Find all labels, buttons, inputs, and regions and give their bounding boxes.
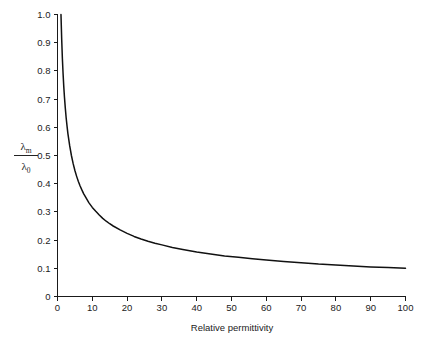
y-axis-ticks: [54, 15, 58, 297]
y-axis-label: λm λ0: [14, 140, 38, 175]
y-axis-tick-labels: 00.10.20.30.40.50.60.70.80.91.0: [37, 9, 50, 302]
chart-plot: 00.10.20.30.40.50.60.70.80.91.0 01020304…: [0, 0, 422, 346]
y-tick-label-0: 0: [45, 291, 50, 302]
x-tick-label-30: 30: [157, 302, 168, 313]
y-tick-label-0.1: 0.1: [37, 263, 50, 274]
x-tick-label-50: 50: [226, 302, 237, 313]
x-tick-label-70: 70: [296, 302, 307, 313]
x-tick-label-0: 0: [55, 302, 60, 313]
y-tick-label-0.9: 0.9: [37, 37, 50, 48]
x-tick-label-100: 100: [398, 302, 414, 313]
axis-lines: [58, 15, 406, 297]
y-tick-label-0.2: 0.2: [37, 235, 50, 246]
y-tick-label-0.5: 0.5: [37, 150, 50, 161]
x-axis-tick-labels: 0102030405060708090100: [55, 302, 414, 313]
x-tick-label-20: 20: [122, 302, 133, 313]
data-curve-lambda-ratio: [61, 15, 406, 269]
data-series-group: [61, 15, 406, 269]
x-axis-ticks: [58, 297, 406, 301]
y-axis-label-numerator: λm: [20, 140, 31, 155]
y-tick-label-1.0: 1.0: [37, 9, 50, 20]
y-axis-label-denominator: λ0: [21, 160, 30, 175]
x-tick-label-60: 60: [261, 302, 272, 313]
y-tick-label-0.3: 0.3: [37, 206, 50, 217]
x-tick-label-80: 80: [331, 302, 342, 313]
x-tick-label-10: 10: [87, 302, 98, 313]
figure-container: 00.10.20.30.40.50.60.70.80.91.0 01020304…: [0, 0, 422, 346]
y-tick-label-0.7: 0.7: [37, 94, 50, 105]
x-axis-title: Relative permittivity: [191, 322, 274, 333]
y-tick-label-0.4: 0.4: [37, 178, 50, 189]
y-tick-label-0.6: 0.6: [37, 122, 50, 133]
x-tick-label-40: 40: [191, 302, 202, 313]
y-tick-label-0.8: 0.8: [37, 65, 50, 76]
x-tick-label-90: 90: [365, 302, 376, 313]
